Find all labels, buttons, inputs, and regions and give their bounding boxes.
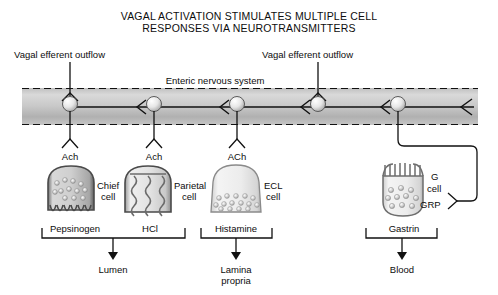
vagal-efferent-right-label: Vagal efferent outflow bbox=[262, 49, 353, 60]
destination-label-lamina: Lamina bbox=[220, 264, 252, 275]
enteric-neuron-2 bbox=[147, 97, 162, 112]
ach-label-2: Ach bbox=[146, 151, 162, 162]
enteric-neuron-5 bbox=[391, 97, 406, 112]
g-cell-label-line2: cell bbox=[427, 183, 441, 194]
cell-parietal: Parietal cell bbox=[125, 166, 206, 216]
cell-ecl: ECL cell bbox=[211, 165, 282, 212]
product-label-pepsinogen: Pepsinogen bbox=[50, 223, 100, 234]
title-line-2: RESPONSES VIA NEUROTRANSMITTERS bbox=[142, 22, 355, 34]
cell-chief: Chief cell bbox=[48, 166, 120, 211]
ecl-cell-label-line1: ECL bbox=[264, 180, 282, 191]
product-label-histamine: Histamine bbox=[215, 223, 257, 234]
destination-label-propria: propria bbox=[221, 275, 251, 286]
enteric-neuron-3 bbox=[230, 97, 245, 112]
ach-label-1: Ach bbox=[62, 151, 78, 162]
enteric-nervous-system-label: Enteric nervous system bbox=[166, 75, 265, 86]
cell-g: G cell GRP bbox=[383, 163, 441, 216]
chief-cell-label-line1: Chief bbox=[97, 180, 120, 191]
bracket-lamina-propria: Lamina propria bbox=[201, 228, 272, 286]
vagal-efferent-left-label: Vagal efferent outflow bbox=[14, 49, 105, 60]
bracket-lumen: Lumen bbox=[42, 228, 185, 275]
product-label-hcl: HCl bbox=[142, 223, 158, 234]
parietal-cell-label-line2: cell bbox=[182, 191, 196, 202]
destination-label-lumen: Lumen bbox=[98, 264, 127, 275]
g-cell-label-line1: G bbox=[431, 171, 438, 182]
enteric-neuron-4 bbox=[311, 97, 326, 112]
physiology-diagram: VAGAL ACTIVATION STIMULATES MULTIPLE CEL… bbox=[0, 0, 498, 295]
ecl-cell-label-line2: cell bbox=[266, 191, 280, 202]
destination-label-blood: Blood bbox=[390, 264, 414, 275]
page-title: VAGAL ACTIVATION STIMULATES MULTIPLE CEL… bbox=[121, 10, 378, 34]
enteric-neuron-1 bbox=[63, 97, 78, 112]
bracket-blood: Blood bbox=[366, 228, 437, 275]
grp-label: GRP bbox=[420, 199, 441, 210]
title-line-1: VAGAL ACTIVATION STIMULATES MULTIPLE CEL… bbox=[121, 10, 378, 22]
product-label-gastrin: Gastrin bbox=[389, 223, 420, 234]
ach-label-3: ACh bbox=[228, 151, 246, 162]
chief-cell-label-line2: cell bbox=[101, 191, 115, 202]
diagram-canvas: VAGAL ACTIVATION STIMULATES MULTIPLE CEL… bbox=[0, 0, 498, 295]
parietal-cell-label-line1: Parietal bbox=[174, 180, 206, 191]
